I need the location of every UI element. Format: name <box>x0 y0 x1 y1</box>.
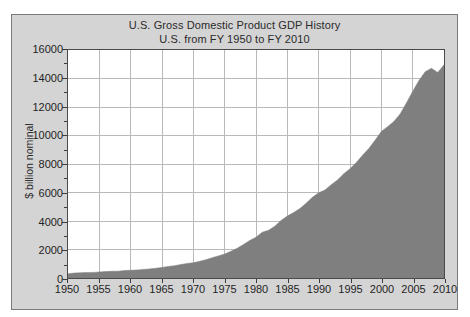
y-tick-minor-mark <box>64 92 67 93</box>
x-tick-mark <box>414 279 415 283</box>
y-tick-mark <box>62 49 67 50</box>
gdp-area-chart <box>68 50 444 278</box>
y-tick-mark <box>62 107 67 108</box>
x-tick-label: 1960 <box>118 283 142 295</box>
y-tick-label: 2000 <box>39 244 63 256</box>
x-tick-mark <box>225 279 226 283</box>
x-tick-label: 1985 <box>275 283 299 295</box>
chart-title: U.S. Gross Domestic Product GDP History … <box>12 18 457 46</box>
y-tick-label: 4000 <box>39 216 63 228</box>
x-tick-label: 1950 <box>55 283 79 295</box>
y-tick-mark <box>62 78 67 79</box>
x-tick-mark <box>130 279 131 283</box>
x-tick-label: 1970 <box>181 283 205 295</box>
x-tick-mark <box>67 279 68 283</box>
y-tick-minor-mark <box>64 150 67 151</box>
y-tick-label: 6000 <box>39 187 63 199</box>
y-tick-label: 8000 <box>39 158 63 170</box>
y-tick-minor-mark <box>64 121 67 122</box>
y-axis-title: $ billion nominal <box>23 101 35 221</box>
x-tick-mark <box>162 279 163 283</box>
chart-container: U.S. Gross Domestic Product GDP History … <box>11 14 458 310</box>
chart-title-line-2: U.S. from FY 1950 to FY 2010 <box>12 32 457 46</box>
x-tick-label: 2010 <box>433 283 457 295</box>
y-tick-minor-mark <box>64 207 67 208</box>
y-tick-minor-mark <box>64 265 67 266</box>
x-tick-label: 1990 <box>307 283 331 295</box>
y-tick-label: 10000 <box>32 129 63 141</box>
x-tick-label: 1965 <box>149 283 173 295</box>
y-tick-mark <box>62 164 67 165</box>
x-tick-label: 1980 <box>244 283 268 295</box>
x-tick-label: 1955 <box>86 283 110 295</box>
x-tick-mark <box>256 279 257 283</box>
x-tick-label: 1975 <box>212 283 236 295</box>
y-tick-mark <box>62 135 67 136</box>
x-tick-mark <box>382 279 383 283</box>
y-tick-label: 16000 <box>32 43 63 55</box>
y-tick-mark <box>62 250 67 251</box>
plot-wrapper: 0200040006000800010000120001400016000 19… <box>67 49 445 279</box>
y-tick-mark <box>62 193 67 194</box>
x-tick-mark <box>288 279 289 283</box>
x-tick-label: 2000 <box>370 283 394 295</box>
y-tick-mark <box>62 222 67 223</box>
x-tick-mark <box>319 279 320 283</box>
x-tick-mark <box>193 279 194 283</box>
x-tick-mark <box>445 279 446 283</box>
chart-title-line-1: U.S. Gross Domestic Product GDP History <box>129 19 341 31</box>
x-tick-mark <box>99 279 100 283</box>
y-tick-minor-mark <box>64 63 67 64</box>
y-tick-label: 12000 <box>32 101 63 113</box>
y-tick-label: 14000 <box>32 72 63 84</box>
x-tick-label: 1995 <box>338 283 362 295</box>
plot-area <box>67 49 445 279</box>
y-tick-minor-mark <box>64 236 67 237</box>
x-tick-mark <box>351 279 352 283</box>
y-tick-minor-mark <box>64 178 67 179</box>
x-tick-label: 2005 <box>401 283 425 295</box>
